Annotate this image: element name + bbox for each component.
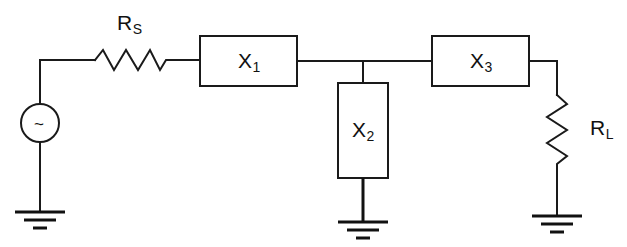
source-resistor-symbol	[95, 50, 200, 70]
circuit-diagram-canvas: ~ RS X1 X2 X3 RL	[0, 0, 627, 247]
reactance-x2-label: X2	[352, 119, 374, 143]
reactance-x2-label-main: X	[352, 118, 366, 141]
source-resistor-label-main: R	[117, 11, 132, 34]
ground-source-symbol	[15, 212, 65, 228]
reactance-x3-label-main: X	[470, 49, 484, 72]
reactance-x3-label-sub: 3	[484, 59, 492, 75]
reactance-x1-label: X1	[238, 50, 260, 74]
reactance-x1-label-sub: 1	[252, 59, 260, 75]
ground-load-symbol	[532, 216, 582, 232]
source-resistor-label-sub: S	[132, 21, 142, 37]
wire-x3-to-load	[529, 61, 557, 95]
load-resistor-label-main: R	[590, 116, 605, 139]
schematic-svg	[0, 0, 627, 247]
load-resistor-label: RL	[590, 117, 613, 141]
ac-source-group	[21, 60, 95, 212]
reactance-x2-label-sub: 2	[366, 128, 374, 144]
load-resistor-symbol	[547, 95, 567, 216]
reactance-x1-label-main: X	[238, 49, 252, 72]
load-resistor-label-sub: L	[605, 126, 613, 142]
ground-x2-symbol	[338, 222, 388, 238]
ac-source-tilde-icon: ~	[34, 116, 44, 133]
source-resistor-label: RS	[117, 12, 142, 36]
reactance-x3-label: X3	[470, 50, 492, 74]
source-top-lead	[40, 60, 95, 104]
